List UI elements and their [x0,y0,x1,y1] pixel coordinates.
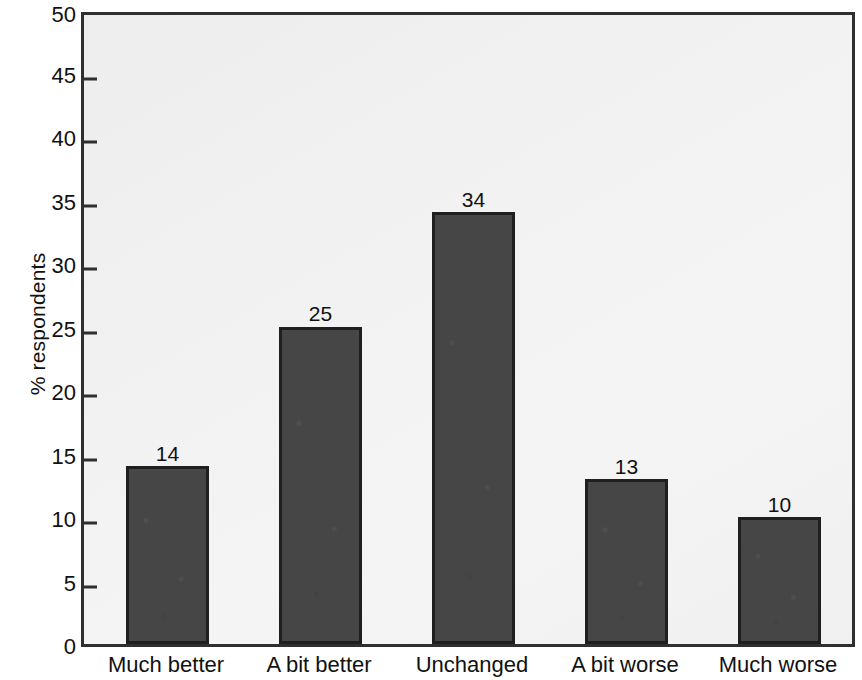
x-axis-tick-labels: Much better A bit better Unchanged A bit… [0,652,862,680]
bar-value-much-better: 14 [126,443,209,464]
x-tick-label-much-worse: Much worse [719,652,838,677]
bar-a-bit-better[interactable] [279,327,362,645]
y-tick-label-40: 40 [34,128,76,150]
y-axis-tick-labels: 0 5 10 15 20 25 30 35 40 45 50 [34,0,76,680]
x-tick-label-much-better: Much better [108,652,224,677]
plot-area: 14 25 34 13 10 [81,12,855,647]
bar-value-a-bit-better: 25 [279,303,362,324]
bar-unchanged[interactable] [432,212,515,644]
bar-value-much-worse: 10 [738,494,821,515]
y-tick-label-30: 30 [34,255,76,277]
bar-chart-figure: % respondents 0 5 10 15 20 25 30 35 40 4… [0,0,862,680]
y-tick-label-10: 10 [34,509,76,531]
bar-value-a-bit-worse: 13 [585,456,668,477]
y-tick-label-45: 45 [34,65,76,87]
y-tick-label-15: 15 [34,446,76,468]
y-tick-label-35: 35 [34,192,76,214]
bar-much-better[interactable] [126,466,209,644]
y-tick-label-20: 20 [34,382,76,404]
x-tick-label-a-bit-better: A bit better [266,652,371,677]
y-tick-label-50: 50 [34,4,76,26]
bar-value-unchanged: 34 [432,189,515,210]
y-tick-label-5: 5 [34,573,76,595]
x-tick-label-unchanged: Unchanged [416,652,529,677]
x-tick-label-a-bit-worse: A bit worse [571,652,679,677]
y-tick-label-25: 25 [34,319,76,341]
bar-a-bit-worse[interactable] [585,479,668,644]
bars-layer: 14 25 34 13 10 [84,15,852,644]
bar-much-worse[interactable] [738,517,821,644]
